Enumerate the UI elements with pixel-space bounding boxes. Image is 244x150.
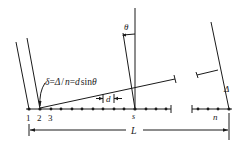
length-right-arrowhead <box>223 128 228 131</box>
spacing-right-arrowhead <box>114 97 118 100</box>
element <box>71 108 74 111</box>
element-2-label: 2 <box>37 113 42 123</box>
ray-element-s <box>123 33 135 109</box>
element-1-label: 1 <box>26 113 31 123</box>
element <box>197 108 200 111</box>
element <box>60 108 63 111</box>
ray-element-n <box>211 22 229 109</box>
element <box>165 108 168 111</box>
element-3-label: 3 <box>48 113 53 123</box>
element <box>145 108 148 111</box>
wavefront-perpendicular-n <box>197 70 218 75</box>
element <box>207 108 210 111</box>
element-s-label: s <box>132 112 135 121</box>
theta-label: θ <box>124 22 129 32</box>
formula-label: δ=Δ/n=dsinθ <box>45 77 97 87</box>
length-left-arrowhead <box>30 128 35 131</box>
ray-element-1 <box>16 42 29 109</box>
length-L-label: L <box>130 125 137 136</box>
phased-array-diagram: 1 2 3 s n δ=Δ/n=dsinθ d θ Δ L <box>0 0 244 150</box>
element <box>217 108 220 111</box>
element <box>155 108 158 111</box>
ray-element-2 <box>27 38 40 109</box>
element <box>113 108 116 111</box>
element <box>123 108 126 111</box>
element <box>102 108 105 111</box>
element <box>81 108 84 111</box>
spacing-d-label: d <box>106 94 111 104</box>
path-difference-label: Δ <box>223 84 229 94</box>
spacing-left-arrowhead <box>99 97 103 100</box>
element-n-label: n <box>213 112 218 122</box>
element <box>92 108 95 111</box>
element-3 <box>50 108 53 111</box>
